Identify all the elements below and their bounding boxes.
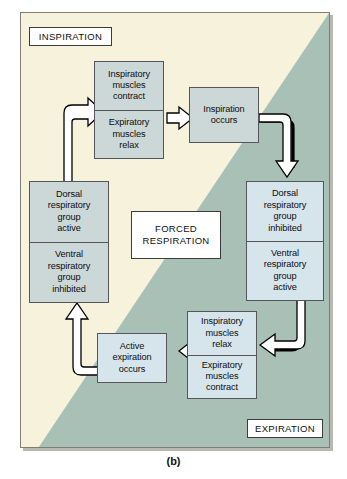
inspiratory-muscles-contract-line2: muscles	[113, 80, 146, 91]
ventral-group-inhibited-line2: respiratory	[48, 261, 90, 272]
inspiratory-muscles-contract-line1: Inspiratory	[108, 69, 150, 80]
top-muscle-stack: Inspiratory muscles contract Expiratory …	[94, 61, 164, 159]
figure-caption: (b)	[0, 455, 347, 467]
active-expiration-occurs-line3: occurs	[119, 364, 145, 375]
expiratory-muscles-contract-line3: contract	[206, 382, 238, 393]
box-ventral-respiratory-group-inhibited: Ventral respiratory group inhibited	[30, 242, 108, 303]
box-expiratory-muscles-relax: Expiratory muscles relax	[95, 110, 163, 159]
ventral-group-active-line4: active	[273, 282, 296, 293]
dorsal-group-active-line1: Dorsal	[56, 189, 82, 200]
inspiratory-muscles-contract-line3: contract	[113, 91, 145, 102]
expiratory-muscles-contract-line1: Expiratory	[202, 360, 242, 371]
expiratory-muscles-contract-line2: muscles	[206, 371, 239, 382]
ventral-group-inhibited-line1: Ventral	[55, 249, 83, 260]
expiratory-muscles-relax-line3: relax	[119, 140, 138, 151]
bottom-muscle-stack: Inspiratory muscles relax Expiratory mus…	[187, 311, 257, 399]
inspiration-occurs-line1: Inspiration	[203, 104, 244, 115]
expiratory-muscles-relax-line1: Expiratory	[109, 117, 149, 128]
diagram-frame: INSPIRATION EXPIRATION FORCED RESPIRATIO…	[20, 12, 330, 448]
dorsal-group-active-line3: group	[58, 212, 81, 223]
box-active-expiration-occurs: Active expiration occurs	[97, 333, 167, 383]
ventral-group-active-line1: Ventral	[271, 248, 299, 259]
inspiration-section-label: INSPIRATION	[29, 27, 112, 46]
box-expiratory-muscles-contract: Expiratory muscles contract	[188, 355, 256, 399]
right-respiratory-group-stack: Dorsal respiratory group inhibited Ventr…	[246, 181, 324, 301]
ventral-group-active-line2: respiratory	[264, 259, 306, 270]
box-dorsal-respiratory-group-active: Dorsal respiratory group active	[30, 182, 108, 242]
inspiration-occurs-line2: occurs	[211, 115, 237, 126]
ventral-group-active-line3: group	[274, 271, 297, 282]
ventral-group-inhibited-line4: inhibited	[52, 284, 85, 295]
forced-respiration-line1: FORCED	[155, 223, 197, 235]
box-inspiratory-muscles-relax: Inspiratory muscles relax	[188, 312, 256, 355]
expiration-section-label: EXPIRATION	[247, 419, 323, 438]
dorsal-group-active-line2: respiratory	[48, 200, 90, 211]
inspiratory-muscles-relax-line1: Inspiratory	[201, 316, 243, 327]
dorsal-group-inhibited-line1: Dorsal	[272, 188, 298, 199]
box-inspiration-occurs: Inspiration occurs	[189, 87, 259, 143]
forced-respiration-line2: RESPIRATION	[143, 235, 210, 247]
forced-respiration-cycle-diagram: INSPIRATION EXPIRATION FORCED RESPIRATIO…	[0, 0, 347, 479]
inspiratory-muscles-relax-line3: relax	[212, 339, 231, 350]
box-dorsal-respiratory-group-inhibited: Dorsal respiratory group inhibited	[247, 182, 323, 241]
dorsal-group-inhibited-line2: respiratory	[264, 200, 306, 211]
dorsal-group-active-line4: active	[57, 223, 80, 234]
active-expiration-occurs-line2: expiration	[113, 352, 152, 363]
ventral-group-inhibited-line3: group	[58, 272, 81, 283]
active-expiration-occurs-line1: Active	[120, 341, 144, 352]
box-ventral-respiratory-group-active: Ventral respiratory group active	[247, 241, 323, 301]
dorsal-group-inhibited-line4: inhibited	[268, 223, 301, 234]
forced-respiration-center-label: FORCED RESPIRATION	[131, 211, 221, 259]
inspiratory-muscles-relax-line2: muscles	[206, 328, 239, 339]
box-inspiratory-muscles-contract: Inspiratory muscles contract	[95, 62, 163, 110]
left-respiratory-group-stack: Dorsal respiratory group active Ventral …	[29, 181, 109, 303]
expiratory-muscles-relax-line2: muscles	[113, 129, 146, 140]
dorsal-group-inhibited-line3: group	[274, 211, 297, 222]
